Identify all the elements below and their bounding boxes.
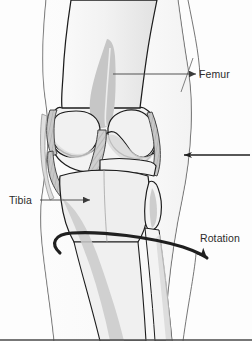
- skin-outline-calf-medial: [183, 254, 196, 341]
- femur-label: Femur: [199, 68, 230, 80]
- knee-diagram-svg: Femur Tibia Rotation: [0, 0, 252, 341]
- tibia-label: Tibia: [9, 194, 32, 206]
- skin-outline-lateral-outer: [188, 0, 200, 76]
- knee-anatomy-figure: Femur Tibia Rotation: [0, 0, 252, 341]
- rotation-label: Rotation: [200, 232, 240, 244]
